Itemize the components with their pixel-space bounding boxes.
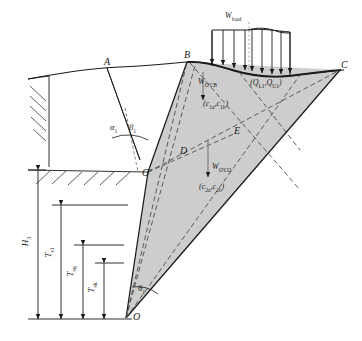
slope-stability-diagram xyxy=(0,0,362,341)
vertex-label-B: B xyxy=(184,50,190,60)
angle-cone-lines xyxy=(107,68,140,160)
vertical-reference-dashed xyxy=(125,108,138,172)
angle-label-theta1: θ1 xyxy=(138,284,145,295)
dimension-label-H3: H3 xyxy=(21,237,32,247)
dimension-lines xyxy=(28,170,132,319)
angle-arcs-at-Oprime xyxy=(112,135,148,140)
force-label-q-pair: (QL1,QU1) xyxy=(250,79,282,89)
angle-label-beta1: β1 xyxy=(129,123,136,134)
dimension-label-Tsq: Tsq xyxy=(66,266,77,276)
cohesion-label-c2-pair: (c2a,c2b) xyxy=(199,183,224,193)
angle-label-alpha1: α1 xyxy=(110,123,117,134)
vertex-label-O: O xyxy=(133,312,140,322)
force-label-w-oco: WO'CO xyxy=(212,163,231,173)
force-label-w-load: Wload xyxy=(225,12,241,22)
vertex-label-C: C xyxy=(341,60,348,70)
vertex-label-E: E xyxy=(234,126,240,136)
hatch-bench xyxy=(36,171,130,185)
hatch-upper-left xyxy=(30,86,46,141)
vertex-label-O-prime: O' xyxy=(142,168,151,178)
retaining-structure xyxy=(28,68,148,172)
vertex-label-D: D xyxy=(180,146,187,156)
failure-wedge-shaded-region xyxy=(126,62,340,318)
force-label-w-ocb: WO'CB xyxy=(198,78,217,88)
dimension-label-Ts1: Ts1 xyxy=(44,247,55,257)
cohesion-label-c1-pair: (c1a,c1b) xyxy=(203,100,228,110)
vertex-label-A: A xyxy=(104,57,110,67)
dimension-label-Tsk: Tsk xyxy=(87,282,98,292)
